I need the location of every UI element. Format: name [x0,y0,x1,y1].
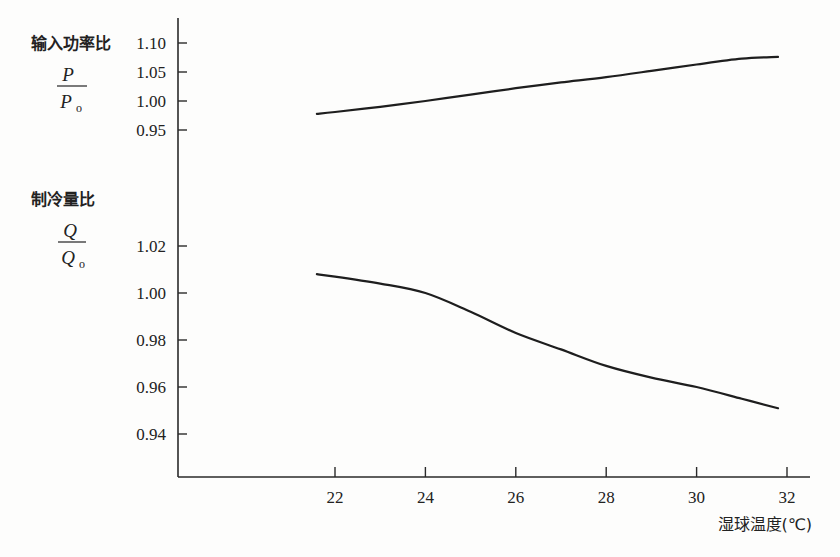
y-tick-label: 1.02 [136,237,166,256]
x-tick-label: 28 [598,488,615,507]
y-tick-label: 1.00 [136,284,166,303]
y-tick-label: 1.05 [136,63,166,82]
x-tick-label: 26 [507,488,524,507]
y-tick-label: 0.98 [136,331,166,350]
chart: 0.951.001.051.10 0.940.960.981.001.02 22… [0,0,840,557]
y-tick-label: 0.96 [136,378,166,397]
x-axis-label: 湿球温度(℃) [718,515,812,534]
cooling-numerator: Q [63,220,77,241]
y-tick-label: 1.10 [136,34,166,53]
y-tick-label: 0.95 [136,121,166,140]
y-tick-label: 1.00 [136,92,166,111]
power-numerator: P [61,64,74,85]
x-ticks: 222426283032 [327,467,796,507]
power-ratio-curve [317,57,778,114]
power-denominator: P [59,91,72,112]
cooling-denominator: Q [61,247,75,268]
power-denominator-sub: o [76,101,82,115]
cooling-ratio-curve [317,274,778,408]
cooling-denominator-sub: o [79,257,85,271]
x-tick-label: 22 [327,488,344,507]
power-ratio-label: 输入功率比 [31,34,111,53]
x-tick-label: 30 [688,488,705,507]
x-tick-label: 24 [417,488,435,507]
y-tick-label: 0.94 [136,425,166,444]
cooling-ratio-label: 制冷量比 [31,190,95,209]
x-tick-label: 32 [779,488,796,507]
lower-y-ticks: 0.940.960.981.001.02 [136,237,187,444]
upper-y-ticks: 0.951.001.051.10 [136,34,187,140]
